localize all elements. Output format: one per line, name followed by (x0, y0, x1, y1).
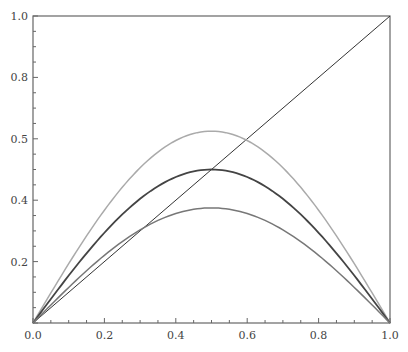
x-tick-label: 0.4 (167, 329, 185, 342)
y-tick-label: 0.8 (11, 71, 29, 84)
y-tick-label: 0.4 (11, 194, 29, 207)
y-tick-label: 0.5 (11, 133, 29, 146)
y-tick-label: 1.0 (11, 10, 29, 23)
x-tick-label: 0.6 (238, 329, 256, 342)
upper-curve-line (33, 131, 390, 323)
x-tick-label: 0.0 (24, 329, 42, 342)
lower-curve-line (33, 208, 390, 323)
x-tick-label: 0.2 (96, 329, 114, 342)
x-tick-label: 1.0 (381, 329, 399, 342)
data-series (33, 16, 390, 323)
x-tick-label: 0.8 (310, 329, 328, 342)
y-tick-label: 0.2 (11, 256, 29, 269)
line-chart: 0.00.20.40.60.81.00.20.40.50.81.0 (0, 0, 408, 352)
middle-curve-line (33, 170, 390, 324)
